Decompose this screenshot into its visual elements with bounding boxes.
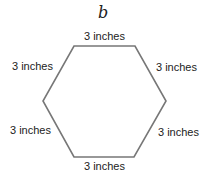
side-label-upper-right: 3 inches bbox=[156, 62, 197, 73]
side-label-bottom: 3 inches bbox=[84, 161, 125, 172]
side-label-upper-left: 3 inches bbox=[12, 61, 53, 72]
hexagon-shape bbox=[0, 0, 210, 173]
side-label-top: 3 inches bbox=[84, 31, 125, 42]
side-label-lower-right: 3 inches bbox=[158, 127, 199, 138]
side-label-lower-left: 3 inches bbox=[10, 125, 51, 136]
hexagon-figure: b 3 inches 3 inches 3 inches 3 inches 3 … bbox=[0, 0, 210, 173]
